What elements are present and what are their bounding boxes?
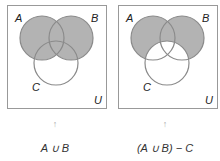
up-arrow-icon: ↑ (0, 120, 110, 129)
caption-union-minus-c: (A ∪ B) − C (110, 142, 220, 155)
label-a: A (14, 12, 22, 24)
venn-panel-union: A B C U ↑ A ∪ B (0, 0, 110, 161)
caption-union: A ∪ B (0, 142, 110, 155)
label-b: B (91, 12, 98, 24)
label-b: B (202, 12, 209, 24)
venn-diagram-union: A B C U (0, 0, 110, 120)
venn-diagram-union-minus-c: A B C U (110, 0, 220, 120)
up-arrow-icon: ↑ (110, 120, 220, 129)
label-universe: U (205, 94, 213, 106)
label-a: A (125, 12, 133, 24)
label-universe: U (94, 94, 102, 106)
label-c: C (143, 81, 151, 93)
label-c: C (32, 81, 40, 93)
venn-panel-union-minus-c: A B C U ↑ (A ∪ B) − C (110, 0, 220, 161)
